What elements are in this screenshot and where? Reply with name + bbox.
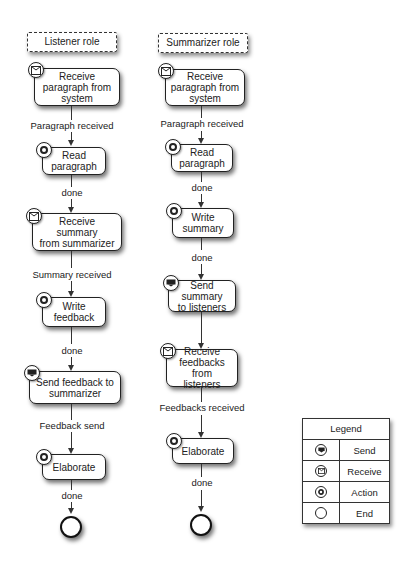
edge-label: Feedback send (27, 420, 117, 431)
summarizer-receive-feedbacks-node[interactable]: Receive feedbacks from listeners (166, 349, 238, 387)
end-icon (315, 507, 327, 519)
legend-label: Send (340, 440, 389, 460)
edge-line (71, 480, 72, 490)
send-icon (24, 365, 40, 381)
edge-label: done (47, 187, 97, 198)
legend-row-send: Send (303, 440, 389, 461)
listener-role-header: Listener role (27, 32, 117, 52)
receive-icon (160, 343, 176, 359)
edge-line (201, 312, 202, 344)
node-label: Send summary to listeners (173, 280, 231, 313)
send-icon (315, 444, 327, 456)
node-label: Read paragraph (179, 147, 225, 169)
edge-line (201, 387, 202, 403)
action-icon (315, 486, 327, 498)
arrow-head-icon (68, 508, 74, 514)
node-label: Write feedback (54, 301, 95, 323)
edge-line (201, 238, 202, 250)
legend-row-end: End (303, 503, 389, 523)
legend-label: Receive (340, 461, 389, 481)
receive-icon (28, 62, 44, 78)
node-label: Receive summary from summarizer (37, 216, 117, 249)
listener-receive-paragraph-node[interactable]: Receive paragraph from system (34, 68, 120, 106)
edge-label: Summary received (22, 269, 122, 280)
legend-label: End (340, 503, 389, 523)
receive-icon (26, 208, 42, 224)
edge-line (201, 172, 202, 182)
edge-label: done (47, 490, 97, 501)
edge-label: done (47, 345, 97, 356)
edge-line (71, 106, 72, 120)
node-label: Receive paragraph from system (171, 71, 239, 104)
edge-line (71, 175, 72, 187)
action-icon (36, 142, 52, 158)
summarizer-end-node[interactable] (190, 514, 212, 536)
receive-icon (315, 465, 327, 477)
receive-icon (158, 63, 174, 79)
edge-label: Feedbacks received (152, 402, 252, 413)
edge-line (71, 327, 72, 344)
legend-title: Legend (303, 419, 389, 440)
listener-send-feedback-node[interactable]: Send feedback to summarizer (29, 371, 121, 404)
edge-label: done (177, 182, 227, 193)
legend-row-action: Action (303, 482, 389, 503)
node-label: Receive paragraph from system (43, 71, 111, 104)
node-label: Send feedback to summarizer (36, 377, 114, 399)
action-icon (36, 449, 52, 465)
arrow-head-icon (68, 140, 74, 146)
edge-label: Paragraph received (22, 120, 122, 131)
summarizer-receive-paragraph-node[interactable]: Receive paragraph from system (165, 69, 245, 106)
edge-line (201, 106, 202, 118)
summarizer-role-header: Summarizer role (158, 33, 248, 53)
legend-row-receive: Receive (303, 461, 389, 482)
send-icon (163, 275, 179, 291)
action-icon (36, 292, 52, 308)
node-label: Write summary (182, 212, 223, 234)
edge-line (71, 251, 72, 268)
action-icon (166, 433, 182, 449)
node-label: Receive feedbacks from listeners (171, 346, 233, 390)
action-icon (165, 139, 181, 155)
legend-label: Action (340, 482, 389, 502)
node-label: Elaborate (182, 446, 225, 457)
listener-receive-summary-node[interactable]: Receive summary from summarizer (32, 213, 122, 251)
edge-label: done (177, 252, 227, 263)
action-icon (166, 203, 182, 219)
edge-label: Paragraph received (152, 118, 252, 129)
listener-end-node[interactable] (60, 516, 82, 538)
arrow-head-icon (198, 506, 204, 512)
node-label: Elaborate (53, 462, 96, 473)
edge-label: done (177, 477, 227, 488)
node-label: Read paragraph (51, 150, 97, 172)
edge-line (201, 464, 202, 478)
legend: Legend Send Receive Action End (302, 418, 390, 524)
